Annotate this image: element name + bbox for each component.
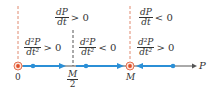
flow-dot-1 — [31, 64, 36, 69]
second-derivative-left-label: d²Pdt² > 0 — [24, 38, 61, 57]
axis-arrow-icon — [192, 64, 197, 69]
equilibrium-m-dot — [128, 64, 132, 68]
equilibrium-zero-dot — [16, 64, 20, 68]
flow-dot-2 — [84, 64, 89, 69]
m-label: M — [126, 72, 135, 82]
first-derivative-negative-label: dPdt < 0 — [139, 8, 173, 27]
flow-arrow-left-3 — [136, 63, 143, 69]
second-derivative-right-label: d²Pdt² > 0 — [137, 38, 174, 57]
second-derivative-middle-label: d²Pdt² < 0 — [79, 38, 116, 57]
zero-label: 0 — [15, 72, 21, 82]
half-m-label: M2 — [67, 70, 78, 89]
flow-arrow-right-2 — [117, 63, 124, 69]
flow-arrow-right-1 — [59, 63, 66, 69]
axis-p-label: P — [199, 60, 206, 71]
first-derivative-positive-label: dPdt > 0 — [55, 8, 89, 27]
flow-dot-3 — [171, 64, 176, 69]
